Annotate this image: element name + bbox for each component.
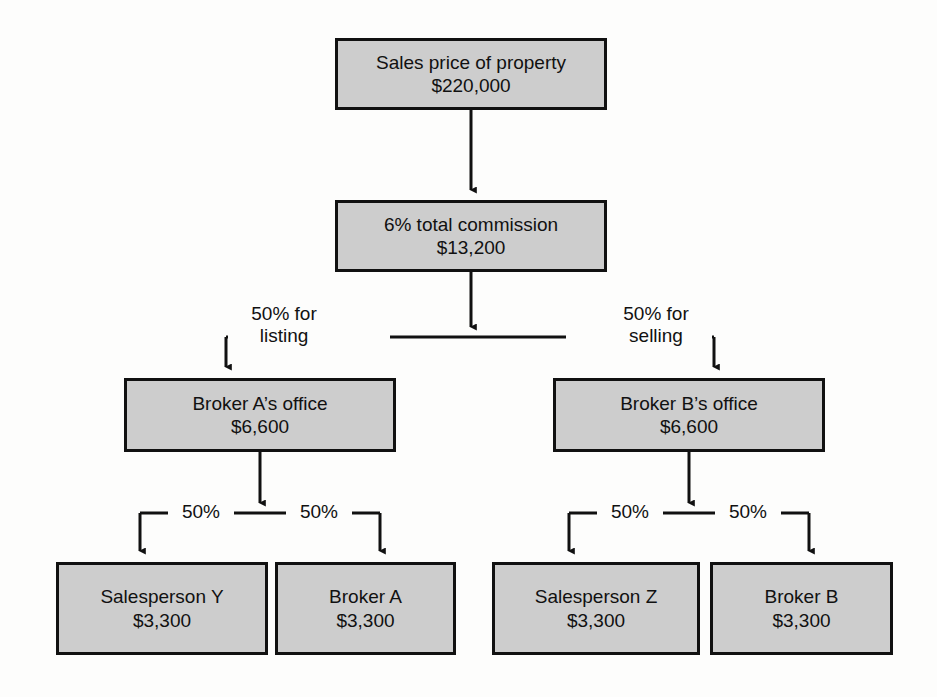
edge-label-listing: 50% for listing bbox=[228, 303, 340, 348]
edge-label-b-right: 50% bbox=[715, 501, 781, 523]
edge-label-b-left: 50% bbox=[597, 501, 663, 523]
diagram-canvas: Sales price of property $220,000 6% tota… bbox=[0, 0, 937, 697]
node-label: Broker A’s office bbox=[192, 392, 327, 415]
node-label: Sales price of property bbox=[376, 51, 566, 74]
edge-label-a-right: 50% bbox=[286, 501, 352, 523]
node-broker-a: Broker A $3,300 bbox=[275, 562, 456, 655]
node-value: $6,600 bbox=[231, 415, 289, 438]
node-broker-b: Broker B $3,300 bbox=[710, 562, 893, 655]
node-value: $3,300 bbox=[772, 609, 830, 632]
node-label: Salesperson Z bbox=[535, 585, 658, 608]
node-value: $3,300 bbox=[336, 609, 394, 632]
node-value: $220,000 bbox=[431, 74, 510, 97]
node-salesperson-y: Salesperson Y $3,300 bbox=[56, 562, 268, 655]
node-broker-a-office: Broker A’s office $6,600 bbox=[124, 378, 396, 452]
node-salesperson-z: Salesperson Z $3,300 bbox=[492, 562, 700, 655]
node-label: 6% total commission bbox=[384, 213, 558, 236]
node-value: $3,300 bbox=[133, 609, 191, 632]
node-label: Broker B bbox=[765, 585, 839, 608]
node-label: Broker A bbox=[329, 585, 402, 608]
edge-label-selling: 50% for selling bbox=[600, 303, 712, 348]
edge-label-a-left: 50% bbox=[168, 501, 234, 523]
node-broker-b-office: Broker B’s office $6,600 bbox=[553, 378, 825, 452]
node-value: $3,300 bbox=[567, 609, 625, 632]
node-sales-price: Sales price of property $220,000 bbox=[335, 38, 607, 110]
node-value: $13,200 bbox=[437, 236, 506, 259]
node-total-commission: 6% total commission $13,200 bbox=[335, 200, 607, 272]
node-value: $6,600 bbox=[660, 415, 718, 438]
node-label: Salesperson Y bbox=[100, 585, 223, 608]
node-label: Broker B’s office bbox=[620, 392, 758, 415]
